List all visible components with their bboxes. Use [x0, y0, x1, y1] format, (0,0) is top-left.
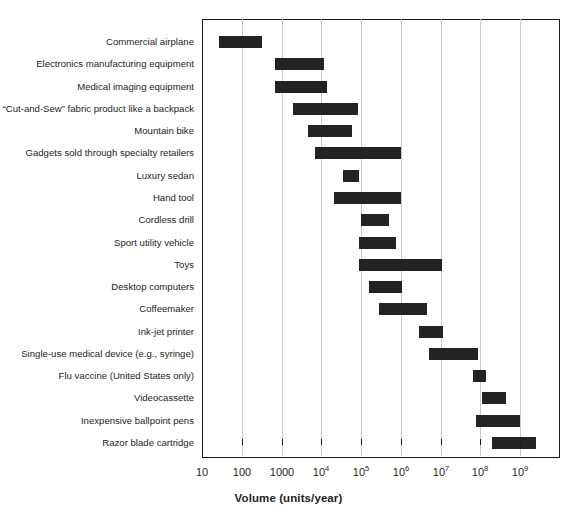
category-label: Sport utility vehicle	[114, 237, 194, 249]
x-tick	[401, 439, 402, 445]
x-tick-label: 10	[196, 466, 208, 478]
production-volume-range-chart: Commercial airplaneElectronics manufactu…	[0, 0, 577, 523]
range-bar	[219, 36, 262, 48]
range-bar	[343, 170, 359, 182]
category-label: Commercial airplane	[106, 36, 194, 48]
range-bar	[492, 437, 536, 449]
range-bar	[419, 326, 443, 338]
category-label: Inexpensive ballpoint pens	[81, 415, 194, 427]
range-bar	[482, 392, 506, 404]
category-label: Mountain bike	[134, 125, 194, 137]
gridline	[242, 19, 243, 456]
category-label: Cordless drill	[139, 214, 194, 226]
gridline	[441, 19, 442, 456]
category-label: “Cut-and-Sew” fabric product like a back…	[3, 103, 194, 115]
range-bar	[308, 125, 352, 137]
x-tick-label: 109	[512, 466, 528, 478]
x-tick	[282, 439, 283, 445]
category-label: Ink-jet printer	[138, 326, 194, 338]
x-tick	[242, 439, 243, 445]
x-tick-label: 105	[353, 466, 369, 478]
range-bar	[429, 348, 478, 360]
category-label: Luxury sedan	[136, 170, 194, 182]
range-bar	[476, 415, 520, 427]
range-bar	[275, 81, 327, 93]
range-bar	[275, 58, 324, 70]
x-axis-title: Volume (units/year)	[0, 492, 577, 504]
x-tick	[480, 439, 481, 445]
category-label: Electronics manufacturing equipment	[36, 58, 194, 70]
x-tick	[520, 439, 521, 445]
x-tick	[441, 439, 442, 445]
range-bar	[359, 237, 396, 249]
range-bar	[379, 303, 427, 315]
gridline	[520, 19, 521, 456]
x-tick-label: 100	[233, 466, 251, 478]
range-bar	[473, 370, 486, 382]
category-label: Hand tool	[153, 192, 194, 204]
gridline	[480, 19, 481, 456]
category-label: Medical imaging equipment	[77, 81, 194, 93]
range-bar	[359, 259, 442, 271]
x-tick-label: 1000	[270, 466, 294, 478]
range-bar	[334, 192, 401, 204]
range-bar	[369, 281, 402, 293]
category-label: Videocassette	[134, 392, 194, 404]
gridline	[401, 19, 402, 456]
x-tick-label: 107	[433, 466, 449, 478]
category-label: Razor blade cartridge	[102, 437, 194, 449]
x-tick	[202, 439, 203, 445]
category-label: Desktop computers	[111, 281, 194, 293]
range-bar	[361, 214, 389, 226]
category-label: Gadgets sold through specialty retailers	[25, 147, 194, 159]
range-bar	[315, 147, 401, 159]
category-label: Flu vaccine (United States only)	[59, 370, 194, 382]
category-label: Toys	[174, 259, 194, 271]
category-label: Coffeemaker	[139, 303, 194, 315]
range-bar	[293, 103, 358, 115]
x-tick-label: 104	[313, 466, 329, 478]
x-tick-label: 108	[472, 466, 488, 478]
category-label: Single-use medical device (e.g., syringe…	[21, 348, 194, 360]
x-tick	[361, 439, 362, 445]
x-tick	[321, 439, 322, 445]
x-tick-label: 106	[393, 466, 409, 478]
